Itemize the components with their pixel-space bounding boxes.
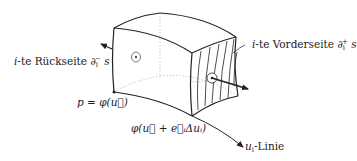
front-face-hatching	[197, 39, 237, 110]
front-face-suffix: s	[348, 38, 357, 50]
point-p-text: p = φ(u⃗)	[77, 96, 128, 108]
back-face-suffix: s	[101, 55, 110, 67]
front-face-label: i-te Vorderseite ∂i+ s	[252, 39, 357, 52]
hidden-edges	[114, 13, 238, 96]
front-face-text: -te Vorderseite	[255, 38, 337, 50]
back-face-label: i-te Rückseite ∂i− s	[14, 56, 110, 69]
u-line-text: -Linie	[254, 140, 284, 152]
u-line-var: u	[245, 140, 252, 152]
volume-element-diagram	[0, 0, 357, 161]
front-edges	[114, 37, 238, 116]
shifted-point-label: φ(u⃗ + e⃗ᵢΔuᵢ)	[131, 123, 206, 134]
back-normal-symbol	[132, 52, 141, 62]
back-face-text: -te Rückseite	[17, 55, 90, 67]
u-line-label: ui-Linie	[245, 141, 284, 154]
top-face	[114, 13, 236, 53]
point-p-marker	[113, 91, 116, 94]
back-normal-arrow	[101, 44, 112, 49]
shifted-point-text: φ(u⃗ + e⃗ᵢΔuᵢ)	[131, 122, 206, 134]
point-p-label: p = φ(u⃗)	[77, 97, 128, 108]
back-face	[113, 28, 115, 92]
